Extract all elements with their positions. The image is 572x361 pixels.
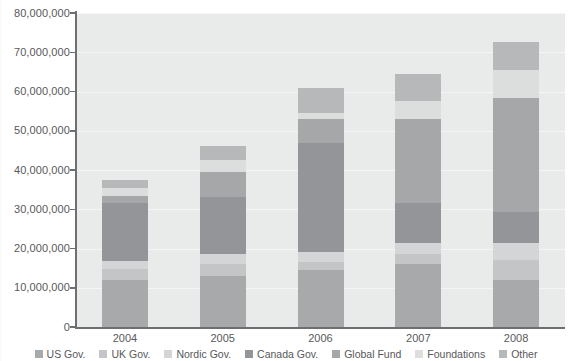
x-axis-tick-label-2004: 2004 <box>80 332 170 344</box>
bar-segment <box>298 88 344 114</box>
bar-segment <box>395 101 441 119</box>
bar-segment <box>395 119 441 203</box>
legend-item-nordic-gov[interactable]: Nordic Gov. <box>164 348 231 360</box>
x-axis-tick-label-2005: 2005 <box>178 332 268 344</box>
bar-segment <box>200 264 246 276</box>
legend-label: US Gov. <box>47 348 86 360</box>
plot-area <box>76 13 565 327</box>
bar-segment <box>200 197 246 253</box>
legend-item-uk-gov[interactable]: UK Gov. <box>99 348 150 360</box>
bar-segment <box>102 261 148 269</box>
legend-label: Foundations <box>427 348 485 360</box>
bar-segment <box>493 260 539 280</box>
legend-swatch-icon <box>499 350 507 358</box>
bar-group-2005 <box>200 13 246 327</box>
y-axis-tick-mark <box>70 248 75 250</box>
bar-segment <box>200 254 246 265</box>
legend-label: UK Gov. <box>111 348 150 360</box>
legend-swatch-icon <box>332 350 340 358</box>
bar-segment <box>298 270 344 327</box>
y-axis-tick-mark <box>70 12 75 14</box>
x-axis-tick-label-2007: 2007 <box>373 332 463 344</box>
y-axis-tick-mark <box>70 209 75 211</box>
bar-segment <box>200 276 246 327</box>
y-axis-tick-label: 70,000,000 <box>2 47 70 58</box>
y-axis-tick-mark <box>70 91 75 93</box>
bar-segment <box>102 196 148 203</box>
legend-label: Canada Gov. <box>257 348 318 360</box>
bar-segment <box>200 146 246 160</box>
bar-segment <box>102 188 148 196</box>
legend-swatch-icon <box>35 350 43 358</box>
y-axis-tick-label: 80,000,000 <box>2 8 70 19</box>
bar-segment <box>395 264 441 327</box>
y-axis-tick-label: 0 <box>2 322 70 333</box>
bar-segment <box>493 243 539 261</box>
bar-segment <box>298 119 344 143</box>
bar-segment <box>298 262 344 270</box>
legend-swatch-icon <box>245 350 253 358</box>
y-axis: 010,000,00020,000,00030,000,00040,000,00… <box>0 0 70 361</box>
bar-segment <box>395 74 441 101</box>
chart-legend: US Gov.UK Gov.Nordic Gov.Canada Gov.Glob… <box>0 346 572 361</box>
x-axis-tick-label-2006: 2006 <box>276 332 366 344</box>
legend-label: Global Fund <box>344 348 401 360</box>
y-axis-tick-label: 10,000,000 <box>2 282 70 293</box>
legend-label: Other <box>511 348 537 360</box>
bar-group-2008 <box>493 13 539 327</box>
bar-segment <box>493 42 539 69</box>
y-axis-tick-mark <box>70 287 75 289</box>
bar-segment <box>493 280 539 327</box>
bar-segment <box>200 160 246 172</box>
legend-label: Nordic Gov. <box>176 348 231 360</box>
y-axis-tick-label: 60,000,000 <box>2 86 70 97</box>
y-axis-tick-label: 30,000,000 <box>2 204 70 215</box>
legend-swatch-icon <box>99 350 107 358</box>
y-axis-tick-mark <box>70 169 75 171</box>
legend-item-us-gov[interactable]: US Gov. <box>35 348 86 360</box>
bar-segment <box>102 269 148 280</box>
bar-segment <box>395 254 441 264</box>
bar-segment <box>298 252 344 262</box>
bar-segment <box>298 143 344 253</box>
x-axis-line <box>75 327 565 329</box>
bar-segment <box>395 243 441 255</box>
y-axis-line <box>75 11 77 329</box>
legend-item-global-fund[interactable]: Global Fund <box>332 348 401 360</box>
y-axis-tick-mark <box>70 326 75 328</box>
bar-group-2004 <box>102 13 148 327</box>
x-axis-tick-label-2008: 2008 <box>471 332 561 344</box>
bar-segment <box>102 203 148 262</box>
bar-segment <box>298 113 344 119</box>
y-axis-tick-mark <box>70 130 75 132</box>
y-axis-tick-mark <box>70 52 75 54</box>
bar-segment <box>200 172 246 198</box>
legend-item-canada-gov[interactable]: Canada Gov. <box>245 348 318 360</box>
stacked-bar-chart: 010,000,00020,000,00030,000,00040,000,00… <box>0 0 572 361</box>
legend-swatch-icon <box>164 350 172 358</box>
bar-segment <box>395 203 441 242</box>
y-axis-tick-label: 50,000,000 <box>2 125 70 136</box>
bar-segment <box>102 180 148 188</box>
y-axis-tick-label: 20,000,000 <box>2 243 70 254</box>
bar-segment <box>493 212 539 243</box>
y-axis-tick-label: 40,000,000 <box>2 165 70 176</box>
legend-item-other[interactable]: Other <box>499 348 537 360</box>
bar-group-2007 <box>395 13 441 327</box>
bar-segment <box>102 280 148 327</box>
legend-item-foundations[interactable]: Foundations <box>415 348 485 360</box>
bar-segment <box>493 70 539 98</box>
legend-swatch-icon <box>415 350 423 358</box>
bar-group-2006 <box>298 13 344 327</box>
bar-segment <box>493 98 539 212</box>
